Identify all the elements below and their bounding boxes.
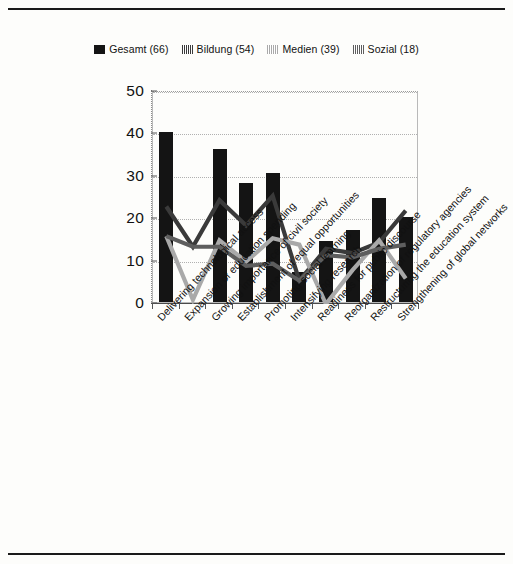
x-axis-tick-mark [205,303,206,309]
y-axis-tick-label: 40 [100,124,144,142]
x-axis-tick-mark [365,303,366,309]
y-axis-tick-label: 20 [100,209,144,227]
x-axis-tick-mark [418,303,419,309]
legend-swatch-icon [267,45,278,54]
line-series-bildung [166,196,405,281]
legend-item-sozial: Sozial (18) [353,44,419,55]
y-axis-tick-label: 50 [100,82,144,100]
x-axis-tick-mark [258,303,259,309]
x-axis-tick-mark [152,303,153,309]
legend-item-bildung: Bildung (54) [182,44,255,55]
x-axis-tick-mark [312,303,313,309]
y-axis-tick-mark [151,260,157,261]
line-series-layer [153,92,419,304]
y-axis-tick-mark [151,133,157,134]
bottom-divider-rule [8,553,505,555]
y-axis-tick-mark [151,303,157,304]
top-divider-rule [8,8,505,10]
y-axis-tick-mark [151,91,157,92]
legend-label: Gesamt (66) [109,44,168,55]
plot-area [152,91,418,303]
legend-swatch-icon [94,45,105,54]
chart-legend: Gesamt (66)Bildung (54)Medien (39)Sozial… [0,44,513,55]
x-axis-tick-mark [391,303,392,309]
legend-item-gesamt: Gesamt (66) [94,44,168,55]
x-axis-tick-mark [338,303,339,309]
legend-swatch-icon [353,45,364,54]
y-axis-tick-label: 10 [100,252,144,270]
legend-label: Sozial (18) [368,44,419,55]
y-axis-tick-mark [151,175,157,176]
legend-item-medien: Medien (39) [267,44,339,55]
x-axis-tick-mark [179,303,180,309]
x-axis-tick-mark [232,303,233,309]
chart-figure: Gesamt (66)Bildung (54)Medien (39)Sozial… [0,0,513,564]
legend-label: Bildung (54) [197,44,255,55]
legend-swatch-icon [182,45,193,54]
legend-label: Medien (39) [282,44,339,55]
y-axis-tick-label: 30 [100,167,144,185]
y-axis-tick-label: 0 [100,294,144,312]
y-axis-tick-mark [151,218,157,219]
y-axis-tick-labels: 01020304050 [98,91,144,303]
x-axis-tick-mark [285,303,286,309]
